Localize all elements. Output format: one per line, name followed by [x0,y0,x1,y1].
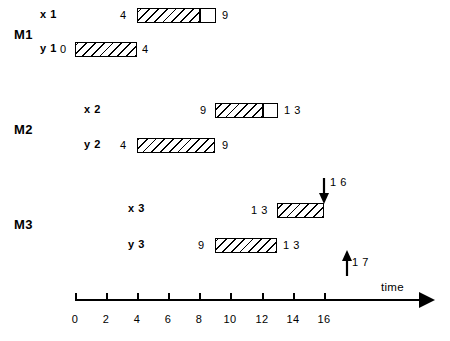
start-time-x2: 9 [200,104,207,116]
axis-tick-label-16: 16 [314,313,334,325]
axis-tick-label-12: 12 [252,313,272,325]
start-time-x1: 4 [120,9,127,21]
bar-x1-segment-2 [200,8,216,23]
job-label-y3: y 3 [128,238,145,250]
job-label-y1: y 1 [40,42,57,54]
job-label-y2: y 2 [84,138,101,150]
start-time-y2: 4 [120,139,127,151]
annotation-label-16: 1 6 [330,176,347,188]
bar-y3-segment-1 [215,238,277,253]
axis-tick-label-6: 6 [158,313,178,325]
machine-label-m3: M3 [14,217,33,232]
machine-label-m2: M2 [14,122,33,137]
axis-tick-6 [168,293,170,300]
axis-tick-2 [106,293,108,300]
axis-arrow-icon [415,291,437,309]
axis-tick-16 [324,293,326,300]
job-label-x3: x 3 [128,202,145,214]
axis-label-time: time [381,281,404,293]
job-label-x2: x 2 [84,103,101,115]
axis-tick-14 [293,293,295,300]
axis-tick-4 [137,293,139,300]
time-axis-line [75,299,420,301]
end-time-x2: 1 3 [284,104,301,116]
axis-tick-label-0: 0 [65,313,85,325]
axis-tick-label-4: 4 [127,313,147,325]
axis-tick-label-10: 10 [220,313,240,325]
end-time-y3: 1 3 [283,239,300,251]
start-time-y3: 9 [198,239,205,251]
job-label-x1: x 1 [40,8,57,20]
axis-tick-0 [75,293,77,300]
bar-y2-segment-1 [137,138,215,153]
axis-tick-10 [230,293,232,300]
start-time-x3: 1 3 [251,204,268,216]
gantt-schedule-chart: M1 x 1 4 9 y 1 0 4 M2 x 2 9 1 3 y 2 4 9 … [0,0,450,341]
annotation-label-17: 1 7 [352,256,369,268]
axis-tick-label-8: 8 [189,313,209,325]
axis-tick-label-14: 14 [283,313,303,325]
bar-y1-segment-1 [75,42,137,57]
axis-tick-label-2: 2 [96,313,116,325]
axis-tick-12 [262,293,264,300]
end-time-y1: 4 [142,43,149,55]
bar-x2-segment-1 [215,103,263,118]
start-time-y1: 0 [60,43,67,55]
end-time-x1: 9 [222,9,229,21]
bar-x2-segment-2 [263,103,278,118]
axis-tick-8 [199,293,201,300]
bar-x1-segment-1 [137,8,200,23]
bar-x3-segment-1 [277,203,324,218]
end-time-y2: 9 [222,139,229,151]
machine-label-m1: M1 [14,27,33,42]
